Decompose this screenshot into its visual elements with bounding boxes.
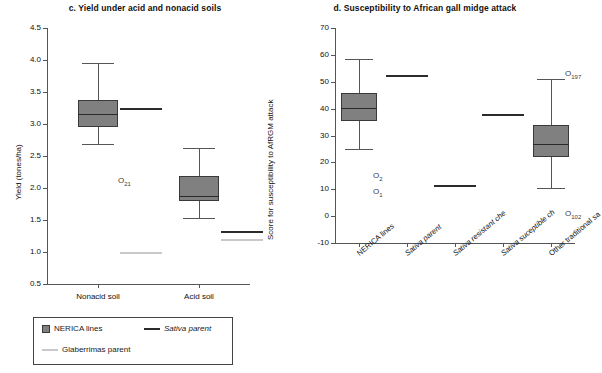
y-tick (331, 243, 335, 244)
outlier-marker: O197 (565, 69, 581, 80)
whisker-cap-lower (345, 149, 373, 150)
y-tick (331, 55, 335, 56)
whisker-cap-upper (537, 79, 565, 80)
y-tick-label: -10 (293, 238, 329, 247)
whisker-lower (359, 121, 360, 149)
y-tick-label: 50 (293, 77, 329, 86)
reference-line-glaberrimas (120, 252, 162, 254)
x-axis-category-label: Acid soil (165, 292, 233, 301)
outlier-marker: O21 (118, 176, 131, 187)
legend-swatch-light-line (42, 349, 58, 351)
whisker-cap-upper (183, 148, 215, 149)
whisker-cap-upper (345, 59, 373, 60)
reference-line-sativa (221, 231, 263, 233)
y-tick (43, 124, 47, 125)
legend-item-glaberrimas: Glaberrimas parent (42, 345, 130, 354)
y-tick-label: 20 (293, 157, 329, 166)
y-tick (43, 156, 47, 157)
y-tick (331, 189, 335, 190)
outlier-marker: O1 (373, 187, 383, 198)
y-tick (43, 220, 47, 221)
y-tick (43, 28, 47, 29)
whisker-upper (359, 59, 360, 93)
box-plot-box (533, 125, 569, 157)
legend-item-nerica: NERICA lines (42, 324, 102, 333)
y-tick (331, 136, 335, 137)
legend-item-sativa: Sativa parent (144, 324, 211, 333)
reference-line-sativa (434, 185, 476, 187)
y-tick-label: 70 (293, 23, 329, 32)
y-tick (43, 252, 47, 253)
legend: NERICA lines Sativa parent Glaberrimas p… (33, 317, 233, 365)
panel-c-title: c. Yield under acid and nonacid soils (0, 3, 290, 13)
legend-label-sativa: Sativa parent (164, 324, 211, 333)
y-axis-line (47, 28, 48, 284)
panel-d-y-axis-label: Score for susceptibility to AfRGM attack (266, 100, 275, 241)
whisker-lower (199, 201, 200, 218)
y-tick (331, 82, 335, 83)
reference-line-sativa (386, 75, 428, 77)
y-tick-label: 0 (293, 211, 329, 220)
box-plot-median (78, 114, 118, 116)
box-plot-median (341, 108, 377, 110)
outlier-marker: O102 (565, 209, 581, 220)
reference-line-sativa (482, 114, 524, 116)
whisker-cap-lower (183, 218, 215, 219)
y-tick (43, 284, 47, 285)
y-tick-label: 4.0 (5, 55, 41, 64)
whisker-cap-upper (82, 63, 114, 64)
x-axis-category-label: Sativa parent (403, 222, 443, 258)
y-tick (43, 92, 47, 93)
y-tick (43, 188, 47, 189)
x-axis-category-label: Nonacid soil (64, 292, 132, 301)
y-tick-label: 30 (293, 131, 329, 140)
whisker-upper (199, 148, 200, 177)
y-tick-label: 1.0 (5, 247, 41, 256)
reference-line-glaberrimas (221, 239, 263, 241)
y-tick-label: 40 (293, 104, 329, 113)
panel-d-title: d. Susceptibility to African gall midge … (275, 3, 575, 13)
box-plot-median (179, 196, 219, 198)
y-axis-line (335, 28, 336, 243)
whisker-lower (98, 127, 99, 144)
panel-d-susceptibility: d. Susceptibility to African gall midge … (290, 0, 583, 373)
x-axis-line (47, 284, 250, 285)
y-tick (331, 162, 335, 163)
whisker-cap-lower (537, 188, 565, 189)
box-plot-median (533, 144, 569, 146)
outlier-marker: O2 (373, 171, 383, 182)
legend-label-glaberrimas: Glaberrimas parent (62, 345, 130, 354)
x-axis-category-label: NERICA lines (355, 221, 396, 257)
legend-swatch-box (42, 325, 50, 333)
y-tick-label: 1.5 (5, 215, 41, 224)
y-tick (331, 216, 335, 217)
y-tick-label: 0.5 (5, 279, 41, 288)
y-tick (331, 28, 335, 29)
x-tick (98, 284, 99, 288)
legend-swatch-dark-line (144, 328, 160, 330)
y-tick (331, 109, 335, 110)
legend-label-nerica: NERICA lines (54, 324, 102, 333)
y-tick-label: 10 (293, 184, 329, 193)
whisker-lower (551, 157, 552, 188)
y-tick-label: 2.0 (5, 183, 41, 192)
y-tick-label: 60 (293, 50, 329, 59)
whisker-upper (98, 63, 99, 99)
y-tick-label: 3.0 (5, 119, 41, 128)
y-tick-label: 2.5 (5, 151, 41, 160)
whisker-cap-lower (82, 144, 114, 145)
x-tick (199, 284, 200, 288)
reference-line-sativa (120, 108, 162, 110)
y-tick (43, 60, 47, 61)
y-tick-label: 3.5 (5, 87, 41, 96)
whisker-upper (551, 79, 552, 125)
y-tick-label: 4.5 (5, 23, 41, 32)
